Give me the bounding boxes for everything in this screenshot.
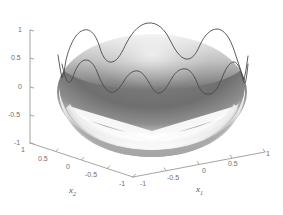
x2-tick-label: -0.5 — [85, 171, 97, 179]
x2-axis-label-subscript: 2 — [73, 191, 76, 197]
z-axis-ticks — [30, 30, 34, 144]
z-tick-label: -0.5 — [8, 111, 20, 119]
z-tick-label: 1 — [18, 26, 22, 34]
x2-tick-label: 1 — [21, 146, 25, 154]
z-tick-label: 0.5 — [11, 54, 21, 62]
x1-axis-label: x1 — [196, 185, 203, 197]
x2-tick-label: 0.5 — [38, 155, 48, 163]
x2-axis-label: x2 — [69, 186, 76, 198]
bowl-surface — [56, 26, 248, 157]
z-tick-label: 0 — [18, 83, 22, 91]
x2-tick-label: -1 — [119, 180, 125, 188]
x1-tick-label: 0.5 — [228, 160, 238, 168]
z-tick-label: -1 — [14, 139, 20, 147]
bowl-rim-fade — [56, 26, 248, 90]
x1-tick-label: -0.5 — [167, 174, 179, 182]
x1-tick-label: 0 — [202, 167, 206, 175]
x1-axis-label-subscript: 1 — [200, 190, 203, 196]
x1-tick-label: -1 — [140, 180, 146, 188]
x1-tick-label: 1 — [266, 150, 270, 158]
x2-tick-label: 0 — [66, 163, 70, 171]
figure-canvas: 1 0.5 0 -0.5 -1 1 0.5 0 -0.5 -1 -1 -0.5 … — [0, 0, 283, 215]
